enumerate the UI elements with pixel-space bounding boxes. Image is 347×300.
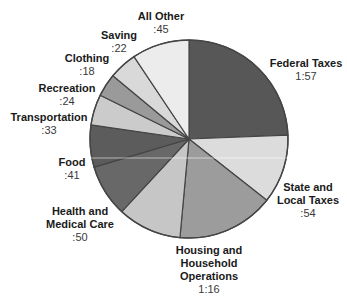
slice-label-name: Housing and [176,244,243,256]
slice-label-recreation: Recreation:24 [39,82,96,107]
slice-label-name: Transportation [10,111,87,123]
slice-label-name: Federal Taxes [270,57,343,69]
slice-label-value: :33 [41,124,56,136]
slice-label-housing-and-household-operations: Housing andHouseholdOperations1:16 [176,244,243,295]
slice-label-name: State and [283,181,333,193]
slice-label-value: :45 [153,23,168,35]
slice-label-all-other: All Other:45 [138,10,185,35]
slice-label-name: Clothing [65,52,110,64]
slice-label-value: :22 [111,42,126,54]
slice-label-name: Medical Care [46,218,114,230]
slice-label-name: Saving [101,29,137,41]
slice-label-value: :24 [59,95,74,107]
slice-label-name: Recreation [39,82,96,94]
slice-label-name: Health and [52,205,108,217]
slice-label-value: :41 [64,169,79,181]
slice-label-value: 1:57 [295,70,316,82]
slice-label-transportation: Transportation:33 [10,111,87,136]
slice-label-name: Local Taxes [277,194,339,206]
slice-label-name: All Other [138,10,185,22]
slice-label-saving: Saving:22 [101,29,137,54]
slice-label-name: Operations [180,270,238,282]
slice-label-name: Household [181,257,238,269]
slice-label-value: :54 [300,207,315,219]
slice-label-clothing: Clothing:18 [65,52,110,77]
slice-label-state-and-local-taxes: State andLocal Taxes:54 [277,181,339,219]
slice-label-food: Food:41 [59,156,86,181]
pie-chart: Federal Taxes1:57State andLocal Taxes:54… [0,0,347,300]
slice-label-health-and-medical-care: Health andMedical Care:50 [46,205,114,243]
pie-slice-federal-taxes [189,40,288,139]
slice-label-name: Food [59,156,86,168]
pie-slices [90,40,288,238]
slice-label-value: 1:16 [198,283,219,295]
slice-label-federal-taxes: Federal Taxes1:57 [270,57,343,82]
slice-label-value: :50 [72,231,87,243]
slice-label-value: :18 [79,65,94,77]
